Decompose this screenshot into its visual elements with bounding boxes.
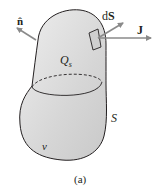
current-density-label: J <box>137 24 143 36</box>
figure-caption: (a) <box>74 174 86 185</box>
volume-label: v <box>42 141 47 152</box>
surface-element-label: dS <box>102 10 115 22</box>
surface-label: S <box>111 112 117 124</box>
normal-vector-label: n̂ <box>17 16 23 27</box>
closed-surface-diagram: n̂ dS J Qs S v (a) <box>0 0 162 188</box>
normal-vector-arrow <box>17 28 36 40</box>
enclosed-charge-label: Qs <box>60 54 72 69</box>
